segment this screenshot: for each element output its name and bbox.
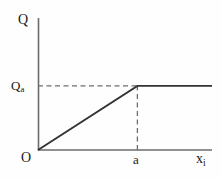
y-tick-label-qa: Qa	[11, 79, 24, 94]
plot-background	[0, 0, 221, 179]
y-tick-label-qa-subscript: a	[20, 84, 24, 94]
x-axis-title-base: x	[196, 151, 203, 166]
x-tick-label-a: a	[133, 153, 139, 166]
chart-figure: Q Qa O a xi	[0, 0, 221, 179]
x-axis-title-subscript: i	[203, 158, 206, 168]
y-tick-label-qa-base: Q	[11, 78, 20, 93]
chart-canvas	[0, 0, 221, 179]
origin-label: O	[21, 151, 31, 165]
x-axis-title: xi	[196, 152, 206, 168]
y-axis-title: Q	[18, 13, 28, 27]
